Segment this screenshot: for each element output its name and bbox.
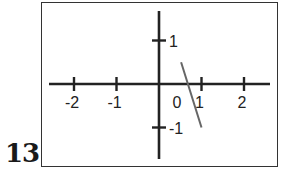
x-ticks: -2-1012 bbox=[65, 77, 247, 111]
coordinate-plot: -2-1012 1-1 bbox=[0, 0, 289, 178]
x-tick-label: 2 bbox=[238, 94, 247, 111]
x-tick-label: 0 bbox=[173, 94, 182, 111]
x-tick-label: -2 bbox=[65, 94, 79, 111]
y-tick-label: -1 bbox=[169, 120, 183, 137]
x-tick-label: -1 bbox=[107, 94, 121, 111]
y-tick-label: 1 bbox=[169, 33, 178, 50]
